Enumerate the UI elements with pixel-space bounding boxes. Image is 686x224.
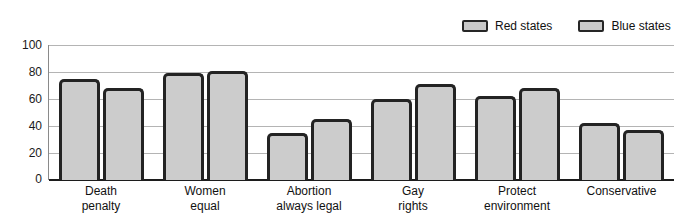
bar-blue-states-abortion-always-legal[interactable]	[311, 119, 352, 180]
bar-red-states-gay-rights[interactable]	[371, 99, 412, 180]
legend-label-red-states: Red states	[495, 20, 552, 32]
x-label-protect-environment-line2: environment	[465, 199, 569, 214]
x-label-conservative: Conservative	[569, 184, 674, 199]
x-label-death-penalty-line2: penalty	[49, 199, 153, 214]
legend-swatch-blue-states-icon	[578, 20, 604, 32]
bar-series-container	[49, 45, 674, 180]
plot-area: 100 80 60 40 20 0	[49, 45, 674, 180]
x-label-death-penalty: Death penalty	[49, 184, 153, 214]
x-label-abortion-always-legal: Abortion always legal	[257, 184, 361, 214]
x-label-abortion-always-legal-line2: always legal	[257, 199, 361, 214]
y-tick-label-100: 100	[22, 38, 42, 52]
x-axis-labels: Death penalty Women equal Abortion alway…	[49, 184, 674, 224]
y-tick-label-20: 20	[29, 146, 42, 160]
bar-group-conservative	[569, 45, 674, 180]
x-label-conservative-line1: Conservative	[586, 184, 656, 198]
bar-blue-states-conservative[interactable]	[623, 130, 664, 180]
bar-red-states-conservative[interactable]	[579, 123, 620, 180]
y-tick-label-80: 80	[29, 65, 42, 79]
x-label-women-equal: Women equal	[153, 184, 257, 214]
bar-group-abortion-always-legal	[257, 45, 361, 180]
bar-group-protect-environment	[465, 45, 569, 180]
x-label-women-equal-line2: equal	[153, 199, 257, 214]
y-tick-label-40: 40	[29, 119, 42, 133]
x-label-gay-rights-line1: Gay	[402, 184, 424, 198]
bar-red-states-abortion-always-legal[interactable]	[267, 133, 308, 180]
bar-blue-states-gay-rights[interactable]	[415, 84, 456, 180]
x-label-abortion-always-legal-line1: Abortion	[287, 184, 332, 198]
x-label-death-penalty-line1: Death	[85, 184, 117, 198]
x-label-protect-environment: Protect environment	[465, 184, 569, 214]
bar-group-women-equal	[153, 45, 257, 180]
legend-label-blue-states: Blue states	[611, 20, 670, 32]
legend-item-blue-states: Blue states	[578, 20, 670, 32]
x-label-protect-environment-line1: Protect	[498, 184, 536, 198]
bar-blue-states-death-penalty[interactable]	[103, 88, 144, 180]
bar-blue-states-women-equal[interactable]	[207, 71, 248, 180]
chart-legend: Red states Blue states	[462, 16, 676, 36]
bar-blue-states-protect-environment[interactable]	[519, 88, 560, 180]
bar-red-states-protect-environment[interactable]	[475, 96, 516, 180]
y-tick-label-60: 60	[29, 92, 42, 106]
y-tick-label-0: 0	[35, 172, 42, 186]
bar-red-states-death-penalty[interactable]	[59, 79, 100, 180]
bar-group-death-penalty	[49, 45, 153, 180]
bar-red-states-women-equal[interactable]	[163, 73, 204, 180]
x-label-gay-rights: Gay rights	[361, 184, 465, 214]
legend-swatch-red-states-icon	[462, 20, 488, 32]
bar-chart: Red states Blue states 100 80 60 40 20 0	[0, 0, 686, 224]
legend-item-red-states: Red states	[462, 20, 552, 32]
x-label-women-equal-line1: Women	[184, 184, 225, 198]
bar-group-gay-rights	[361, 45, 465, 180]
x-label-gay-rights-line2: rights	[361, 199, 465, 214]
